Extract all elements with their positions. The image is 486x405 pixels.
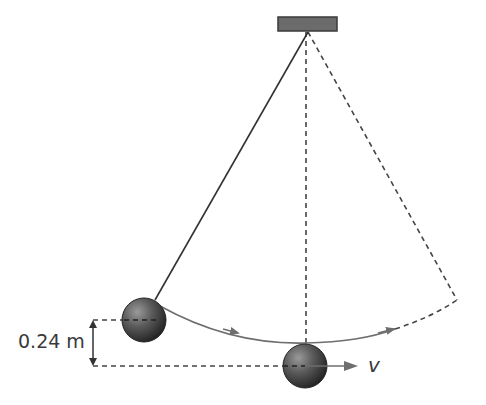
pivot-support — [278, 17, 337, 31]
string-displaced — [155, 32, 308, 300]
swing-arc — [160, 306, 395, 343]
velocity-arrowhead-icon — [344, 361, 358, 371]
arrow-up-icon — [89, 320, 97, 328]
height-label: 0.24 m — [18, 330, 85, 352]
swing-arc-dashed — [395, 300, 457, 329]
arrow-down-icon — [89, 358, 97, 366]
velocity-label: v — [368, 353, 380, 377]
string-far-side — [308, 32, 457, 300]
